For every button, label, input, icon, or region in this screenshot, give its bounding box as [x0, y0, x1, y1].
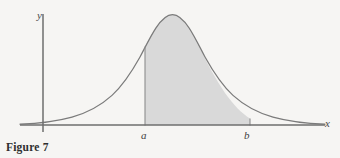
figure-caption: Figure 7 — [6, 141, 49, 154]
shaded-region-a-to-b — [145, 15, 250, 125]
y-axis-label: y — [37, 10, 42, 21]
tick-label-a: a — [141, 130, 147, 141]
figure-normal-distribution: y x a b Figure 7 — [0, 0, 340, 158]
x-axis-label: x — [325, 118, 330, 129]
plot-area — [0, 0, 340, 158]
tick-label-b: b — [244, 130, 250, 141]
